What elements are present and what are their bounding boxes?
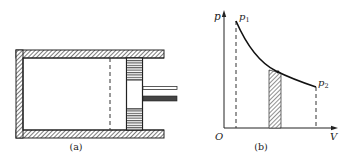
- cylinder-figure: (a): [16, 50, 177, 152]
- origin-label: O: [215, 131, 223, 142]
- pv-graph: p V O p1 p2 (b): [214, 10, 339, 152]
- point1-label: p1: [239, 11, 250, 24]
- cylinder-bottom-wall: [16, 130, 164, 138]
- cylinder-top-wall: [16, 50, 164, 58]
- diagram-canvas: (a) p V O p1 p2 (b): [0, 0, 352, 166]
- shaded-volume-strip: [269, 70, 281, 128]
- point1-subscript: 1: [245, 16, 249, 24]
- x-axis-arrow-icon: [331, 126, 338, 130]
- piston-rod: [143, 87, 177, 102]
- x-axis-label: V: [330, 131, 339, 142]
- figure-b-caption: (b): [254, 141, 268, 152]
- cylinder-left-wall: [16, 50, 23, 138]
- point2-label: p2: [318, 77, 329, 90]
- y-axis-label: p: [214, 10, 221, 22]
- y-axis-arrow-icon: [222, 10, 226, 17]
- piston: [127, 58, 143, 130]
- curve-point-marker: [277, 71, 280, 74]
- figure-a-caption: (a): [69, 141, 82, 152]
- point2-subscript: 2: [324, 82, 328, 90]
